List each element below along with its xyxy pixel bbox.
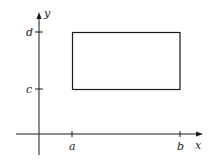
y-tick-label-d: d	[26, 26, 33, 39]
x-axis-arrowhead	[196, 132, 203, 137]
y-axis-arrowhead	[37, 12, 42, 19]
x-tick-label-b: b	[177, 140, 184, 153]
y-axis-label: y	[43, 7, 51, 20]
x-tick-label-a: a	[69, 140, 76, 153]
x-axis-label: x	[195, 139, 202, 152]
region-rectangle	[73, 33, 181, 90]
rectangle-region-diagram: y x d c a b	[0, 0, 211, 164]
y-tick-label-c: c	[26, 83, 32, 96]
